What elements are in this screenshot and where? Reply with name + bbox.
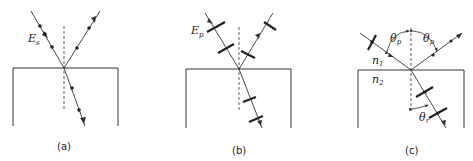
s-dot-icon xyxy=(43,32,47,36)
s-dot-icon xyxy=(38,24,42,28)
refracted-ray-a xyxy=(64,68,85,126)
theta-r-label: θr xyxy=(419,111,430,125)
s-dot-icon xyxy=(449,39,452,42)
panel-b: Ep (b) xyxy=(186,13,291,156)
s-dot-icon xyxy=(77,108,81,112)
s-dot-icon xyxy=(436,111,439,114)
field-label-es: Es xyxy=(27,32,40,47)
polarization-diagram: Es (a) Ep (b) xyxy=(0,0,473,161)
reflected-arrow-c xyxy=(456,33,462,39)
s-dot-icon xyxy=(431,53,434,56)
s-dot-icon xyxy=(75,46,79,50)
incident-arrow-b xyxy=(207,18,213,24)
incident-ray-c xyxy=(360,33,411,70)
p-double-arrow-icon xyxy=(207,22,276,122)
s-dot-icon xyxy=(370,40,374,44)
reflected-ray-b xyxy=(239,13,273,69)
caption-a: (a) xyxy=(57,141,71,152)
caption-b: (b) xyxy=(232,145,246,156)
interface-box-b xyxy=(186,69,291,128)
refracted-arrow-a xyxy=(80,117,86,124)
panel-a: Es (a) xyxy=(13,11,118,152)
panel-c: θp θp θr n1 n2 (c) xyxy=(358,28,464,156)
interface-box-a xyxy=(13,68,118,126)
theta-p-reflected-label: θp xyxy=(423,32,435,46)
s-dot-icon xyxy=(70,86,74,90)
reflected-ray-c xyxy=(411,33,462,70)
incident-arrow-c xyxy=(388,53,394,57)
s-dot-icon xyxy=(50,45,54,49)
refracted-arrow-c xyxy=(441,120,446,126)
angle-arc-refracted xyxy=(412,105,428,109)
s-dot-icon xyxy=(423,90,426,93)
theta-p-incident-label: θp xyxy=(390,32,402,46)
field-label-ep: Ep xyxy=(190,24,204,39)
n2-label: n2 xyxy=(372,73,384,87)
s-dot-icon xyxy=(87,26,91,30)
caption-c: (c) xyxy=(405,145,418,156)
n1-label: n1 xyxy=(372,54,384,68)
